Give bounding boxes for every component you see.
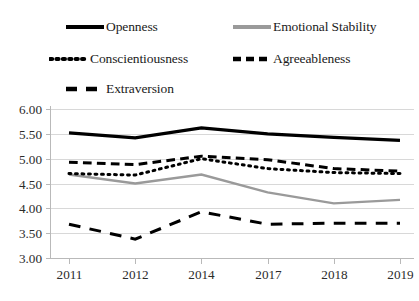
line-chart-figure: Openness Emotional Stability Conscientio… bbox=[0, 0, 419, 301]
x-tick-label: 2017 bbox=[255, 267, 282, 282]
legend-item-extraversion: Extraversion bbox=[65, 82, 174, 96]
y-tick-label: 5.00 bbox=[19, 152, 42, 167]
series-line-extraversion bbox=[69, 212, 400, 239]
y-tick-label: 3.00 bbox=[19, 251, 42, 266]
data-series-layer bbox=[69, 128, 400, 239]
x-tick-label: 2012 bbox=[122, 267, 148, 282]
x-tick-label: 2014 bbox=[188, 267, 215, 282]
dotted-black-line-key-icon bbox=[49, 52, 89, 66]
solid-thick-black-line-key-icon bbox=[65, 20, 105, 34]
legend-label-emotional-stability: Emotional Stability bbox=[272, 20, 376, 34]
chart-legend: Openness Emotional Stability Conscientio… bbox=[0, 8, 419, 94]
legend-label-extraversion: Extraversion bbox=[105, 82, 174, 96]
legend-item-emotional-stability: Emotional Stability bbox=[232, 20, 376, 34]
legend-item-conscientiousness: Conscientiousness bbox=[49, 52, 188, 66]
legend-label-conscientiousness: Conscientiousness bbox=[89, 52, 188, 66]
x-tick-label: 2011 bbox=[57, 267, 83, 282]
series-line-emotional-stability bbox=[69, 175, 400, 204]
y-tick-label: 5.50 bbox=[19, 127, 42, 142]
x-tick-label: 2019 bbox=[387, 267, 414, 282]
y-tick-label: 6.00 bbox=[19, 102, 42, 117]
series-line-conscientiousness bbox=[69, 159, 400, 175]
legend-label-agreeableness: Agreeableness bbox=[272, 52, 350, 66]
chart-svg: 6.005.505.004.504.003.503.00 20112012201… bbox=[0, 100, 419, 301]
y-tick-label: 4.50 bbox=[19, 177, 42, 192]
dashed-black-line-key-icon bbox=[232, 52, 272, 66]
legend-label-openness: Openness bbox=[105, 20, 158, 34]
y-tick-label: 3.50 bbox=[19, 226, 42, 241]
x-axis-labels: 201120122014201720182019 bbox=[57, 267, 415, 282]
chart-plot-area: 6.005.505.004.504.003.503.00 20112012201… bbox=[0, 100, 419, 301]
solid-gray-line-key-icon bbox=[232, 20, 272, 34]
y-tick-label: 4.00 bbox=[19, 201, 42, 216]
x-tick-label: 2018 bbox=[321, 267, 348, 282]
legend-item-openness: Openness bbox=[65, 20, 158, 34]
legend-item-agreeableness: Agreeableness bbox=[232, 52, 350, 66]
y-axis-labels: 6.005.505.004.504.003.503.00 bbox=[19, 102, 42, 266]
long-dashed-black-line-key-icon bbox=[65, 82, 105, 96]
